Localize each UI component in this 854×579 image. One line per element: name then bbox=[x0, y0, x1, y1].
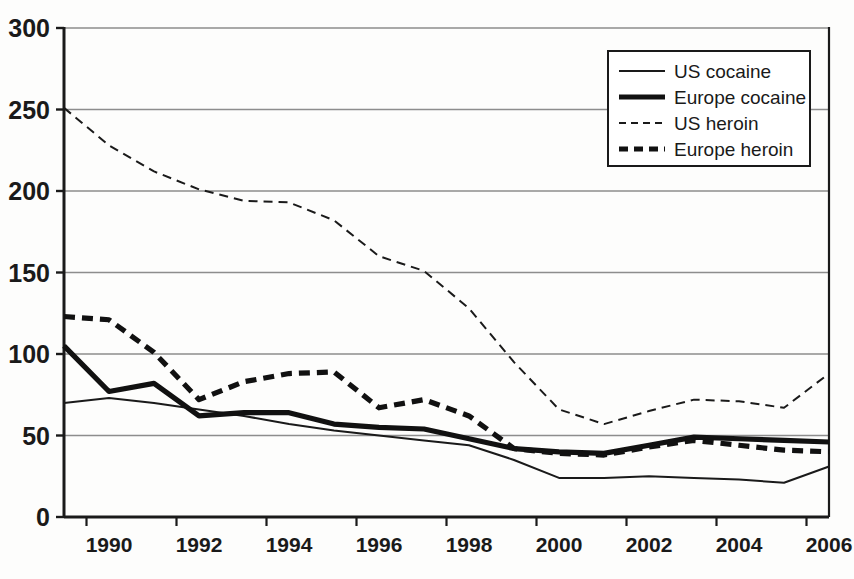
legend-line-swatch bbox=[618, 142, 666, 156]
legend-line-swatch bbox=[618, 90, 666, 104]
legend-item-label: Europe heroin bbox=[674, 140, 793, 159]
chart-legend: US cocaineEurope cocaineUS heroinEurope … bbox=[607, 50, 811, 167]
y-axis-tick-label: 300 bbox=[0, 14, 50, 43]
y-axis-tick-label: 50 bbox=[0, 421, 50, 450]
legend-item: US cocaine bbox=[609, 58, 809, 84]
legend-item: Europe heroin bbox=[609, 136, 809, 162]
legend-item: US heroin bbox=[609, 110, 809, 136]
x-axis-tick-label: 2000 bbox=[536, 533, 583, 557]
x-axis-tick-label: 1992 bbox=[176, 533, 223, 557]
legend-item: Europe cocaine bbox=[609, 84, 809, 110]
legend-line-swatch bbox=[618, 64, 666, 78]
line-chart: 050100150200250300 199019921994199619982… bbox=[0, 0, 854, 579]
legend-line-swatch bbox=[618, 116, 666, 130]
y-axis-tick-label: 250 bbox=[0, 95, 50, 124]
x-axis-tick-label: 2004 bbox=[716, 533, 763, 557]
y-axis-tick-label: 100 bbox=[0, 340, 50, 369]
x-axis-tick-label: 2006 bbox=[806, 533, 853, 557]
y-axis-tick-label: 200 bbox=[0, 177, 50, 206]
legend-item-label: US heroin bbox=[674, 114, 759, 133]
legend-item-label: US cocaine bbox=[674, 62, 771, 81]
legend-item-label: Europe cocaine bbox=[674, 88, 806, 107]
y-axis-tick-label: 0 bbox=[0, 503, 50, 532]
x-axis-tick-label: 1996 bbox=[356, 533, 403, 557]
y-axis-tick-label: 150 bbox=[0, 258, 50, 287]
x-axis-tick-label: 2002 bbox=[626, 533, 673, 557]
x-axis-tick-label: 1998 bbox=[446, 533, 493, 557]
x-axis-tick-label: 1994 bbox=[266, 533, 313, 557]
x-axis-tick-label: 1990 bbox=[86, 533, 133, 557]
